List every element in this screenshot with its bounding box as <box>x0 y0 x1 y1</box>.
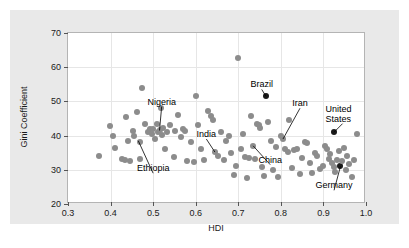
scatter-point <box>125 138 131 144</box>
scatter-point <box>139 85 145 91</box>
scatter-point <box>184 158 190 164</box>
scatter-point <box>349 174 355 180</box>
scatter-point <box>259 164 265 170</box>
x-tick-label: 0.3 <box>62 208 75 218</box>
scatter-point <box>172 128 178 134</box>
scatter-point <box>198 146 204 152</box>
annotation-nigeria: Nigeria <box>147 97 176 107</box>
y-tick-label: 20 <box>51 199 61 209</box>
scatter-point <box>240 131 246 137</box>
x-tick-mark <box>196 202 197 206</box>
x-tick-label: 0.7 <box>232 208 245 218</box>
plot-area: 203040506070 0.30.40.50.60.70.80.91.0 Ni… <box>67 32 365 203</box>
y-tick-mark <box>64 33 68 34</box>
scatter-point <box>167 122 173 128</box>
x-tick-mark <box>153 202 154 206</box>
x-tick-label: 0.4 <box>104 208 117 218</box>
y-tick-label: 30 <box>51 165 61 175</box>
scatter-point <box>327 151 333 157</box>
scatter-point <box>233 163 239 169</box>
scatter-point <box>248 113 254 119</box>
scatter-point <box>201 157 207 163</box>
y-tick-label: 70 <box>51 28 61 38</box>
scatter-point <box>331 129 337 135</box>
scatter-point <box>137 139 143 145</box>
scatter-point <box>107 123 113 129</box>
scatter-point <box>127 158 133 164</box>
x-tick-mark <box>366 202 367 206</box>
scatter-point <box>286 117 292 123</box>
annotation-iran: Iran <box>292 98 308 108</box>
x-tick-label: 0.9 <box>317 208 330 218</box>
scatter-point <box>297 171 303 177</box>
scatter-point <box>123 114 129 120</box>
scatter-point <box>339 158 345 164</box>
scatter-point <box>257 125 263 131</box>
scatter-point <box>280 136 286 142</box>
scatter-point <box>275 174 281 180</box>
scatter-point <box>218 129 224 135</box>
scatter-point <box>304 140 310 146</box>
y-tick-mark <box>64 67 68 68</box>
annotation-leader-lines <box>68 33 364 202</box>
gridline-vertical <box>111 33 112 202</box>
scatter-point <box>341 145 347 151</box>
scatter-point <box>137 156 143 162</box>
y-tick-mark <box>64 101 68 102</box>
annotation-ethiopia: Ethiopia <box>137 163 170 173</box>
scatter-point <box>261 173 267 179</box>
scatter-point <box>215 153 221 159</box>
scatter-point <box>152 136 158 142</box>
scatter-point <box>294 146 300 152</box>
x-tick-label: 0.6 <box>189 208 202 218</box>
gridline-vertical <box>153 33 154 202</box>
scatter-point <box>343 167 349 173</box>
y-axis-title: Gini Coefficient <box>19 87 29 148</box>
chart-figure: Gini Coefficient HDI 203040506070 0.30.4… <box>0 0 409 248</box>
scatter-point <box>299 155 305 161</box>
scatter-point <box>112 145 118 151</box>
scatter-point <box>285 149 291 155</box>
chart-panel: Gini Coefficient HDI 203040506070 0.30.4… <box>10 10 399 224</box>
scatter-point <box>332 169 338 175</box>
y-tick-label: 50 <box>51 96 61 106</box>
y-tick-label: 40 <box>51 131 61 141</box>
y-tick-label: 60 <box>51 62 61 72</box>
x-tick-mark <box>281 202 282 206</box>
scatter-point <box>154 121 160 127</box>
scatter-point <box>265 119 271 125</box>
gridline-horizontal <box>68 101 364 102</box>
gridline-vertical <box>323 33 324 202</box>
gridline-horizontal <box>68 67 364 68</box>
scatter-point <box>193 93 199 99</box>
scatter-point <box>182 128 188 134</box>
x-tick-mark <box>323 202 324 206</box>
scatter-point <box>110 133 116 139</box>
annotation-united-states: United States <box>326 104 360 124</box>
scatter-point <box>263 93 269 99</box>
scatter-point <box>210 117 216 123</box>
scatter-point <box>131 133 137 139</box>
scatter-point <box>314 153 320 159</box>
scatter-point <box>221 157 227 163</box>
scatter-point <box>307 160 313 166</box>
x-tick-mark <box>111 202 112 206</box>
x-tick-label: 0.5 <box>147 208 160 218</box>
scatter-point <box>250 143 256 149</box>
scatter-point <box>309 170 315 176</box>
scatter-point <box>246 155 252 161</box>
scatter-point <box>354 131 360 137</box>
y-tick-mark <box>64 170 68 171</box>
scatter-point <box>344 153 350 159</box>
scatter-point <box>223 138 229 144</box>
x-tick-label: 0.8 <box>275 208 288 218</box>
leader-line <box>283 108 300 139</box>
scatter-point <box>235 55 241 61</box>
x-tick-mark <box>238 202 239 206</box>
gridline-vertical <box>196 33 197 202</box>
scatter-point <box>134 109 140 115</box>
scatter-point <box>351 157 357 163</box>
scatter-point <box>244 175 250 181</box>
scatter-point <box>289 165 295 171</box>
scatter-point <box>238 146 244 152</box>
